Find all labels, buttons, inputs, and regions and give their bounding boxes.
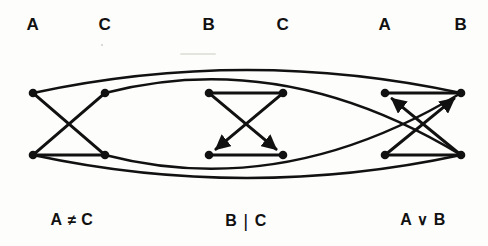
variable-label-b-2: B	[203, 15, 216, 35]
variable-label-b-5: B	[455, 15, 468, 35]
graph-node[interactable]	[101, 89, 110, 98]
constraint-2: B|C	[225, 209, 267, 231]
graph-node[interactable]	[381, 89, 390, 98]
constraint-right-operand: C	[81, 211, 93, 228]
graph-edge	[216, 96, 280, 150]
constraint-1: A≠C	[51, 211, 94, 229]
diagram-canvas: ACBCAB A≠CB|CA∨B	[0, 0, 488, 246]
constraint-left-operand: B	[225, 212, 237, 229]
variable-label-a-0: A	[27, 15, 40, 35]
variable-label-c-3: C	[277, 15, 290, 35]
constraint-left-operand: A	[400, 211, 412, 228]
graph-node[interactable]	[457, 89, 466, 98]
graph-node[interactable]	[29, 89, 38, 98]
variable-label-a-4: A	[379, 15, 392, 35]
scan-speck	[101, 44, 103, 46]
graph-node[interactable]	[101, 151, 110, 160]
graph-node[interactable]	[279, 89, 288, 98]
edge-layer	[33, 70, 461, 178]
variable-label-c-1: C	[99, 15, 112, 35]
graph-node[interactable]	[279, 151, 288, 160]
constraint-left-operand: A	[51, 211, 63, 228]
graph-edge	[212, 96, 276, 150]
scan-speck	[180, 53, 216, 55]
graph-node[interactable]	[29, 151, 38, 160]
constraint-right-operand: C	[255, 212, 267, 229]
graph-node[interactable]	[381, 151, 390, 160]
constraint-operator: ≠	[63, 211, 82, 228]
graph-node[interactable]	[457, 151, 466, 160]
constraint-operator: |	[237, 210, 254, 231]
graph-node[interactable]	[205, 89, 214, 98]
constraint-right-operand: B	[434, 211, 446, 228]
graph-node[interactable]	[205, 151, 214, 160]
constraint-operator: ∨	[412, 211, 434, 228]
constraint-3: A∨B	[400, 211, 446, 229]
